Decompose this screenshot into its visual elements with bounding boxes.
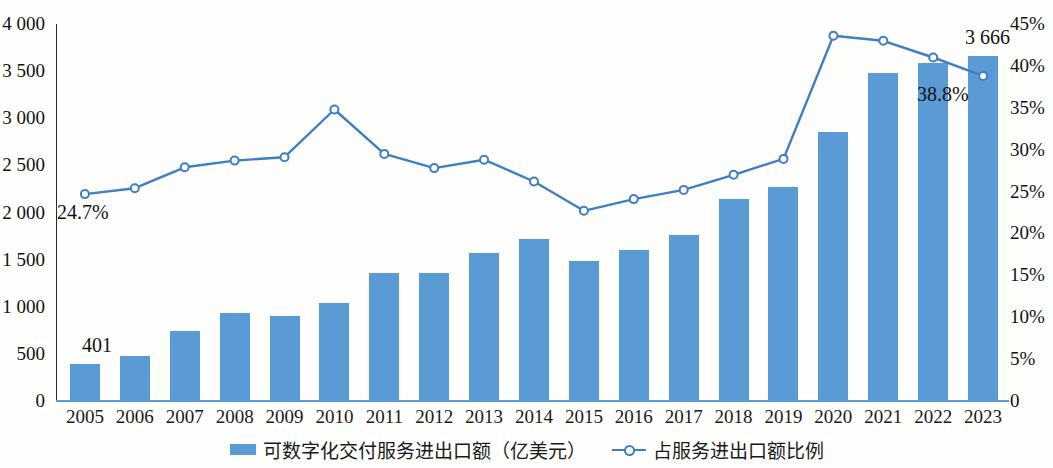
y-axis-right-tick: 45% xyxy=(1010,14,1045,33)
bar-2010[interactable] xyxy=(319,303,349,402)
y-axis-right-tick: 20% xyxy=(1010,223,1045,242)
bar-2023[interactable] xyxy=(968,56,998,402)
first-line-value: 24.7% xyxy=(57,202,109,222)
y-axis-left-tick: 3 500 xyxy=(2,61,45,80)
y-axis-right-tick: 5% xyxy=(1010,349,1035,368)
y-axis-left-tick: 3 000 xyxy=(2,108,45,127)
plot-area xyxy=(60,24,1005,402)
y-axis-right-tick: 30% xyxy=(1010,140,1045,159)
bar-2008[interactable] xyxy=(220,313,250,402)
bar-2009[interactable] xyxy=(270,316,300,402)
bar-2012[interactable] xyxy=(419,273,449,402)
legend-label-line: 占服务进出口额比例 xyxy=(653,436,824,463)
bar-swatch-icon xyxy=(230,444,256,455)
legend-label-bar: 可数字化交付服务进出口额（亿美元） xyxy=(263,436,586,463)
bar-2021[interactable] xyxy=(868,73,898,402)
chart-legend: 可数字化交付服务进出口额（亿美元） 占服务进出口额比例 xyxy=(0,436,1053,463)
bar-2022[interactable] xyxy=(918,63,948,402)
last-bar-value: 3 666 xyxy=(965,27,1010,47)
y-axis-left-tick: 4 000 xyxy=(2,14,45,33)
y-axis-right-tick: 40% xyxy=(1010,56,1045,75)
x-axis-tick-2023: 2023 xyxy=(953,406,1013,427)
bar-2014[interactable] xyxy=(519,239,549,402)
bar-2018[interactable] xyxy=(719,199,749,402)
bar-2011[interactable] xyxy=(369,273,399,402)
y-axis-left-tick: 500 xyxy=(17,344,46,363)
bar-2013[interactable] xyxy=(469,253,499,402)
y-axis-left-tick: 0 xyxy=(36,391,46,410)
chart-container: 05001 0001 5002 0002 5003 0003 5004 000 … xyxy=(0,0,1053,468)
y-axis-right-tick: 10% xyxy=(1010,307,1045,326)
bar-2015[interactable] xyxy=(569,261,599,402)
line-marker-icon xyxy=(612,444,646,456)
y-axis-right-tick: 25% xyxy=(1010,182,1045,201)
bar-2005[interactable] xyxy=(70,364,100,402)
bar-2016[interactable] xyxy=(619,250,649,402)
bar-2020[interactable] xyxy=(818,132,848,402)
first-bar-value: 401 xyxy=(82,335,112,355)
y-axis-left-tick: 1 500 xyxy=(2,250,45,269)
y-axis-left-tick: 2 000 xyxy=(2,203,45,222)
bar-2019[interactable] xyxy=(768,187,798,402)
legend-item-bar[interactable]: 可数字化交付服务进出口额（亿美元） xyxy=(230,436,586,463)
bar-2017[interactable] xyxy=(669,235,699,402)
y-axis-left-tick: 2 500 xyxy=(2,155,45,174)
y-axis-right-tick: 35% xyxy=(1010,98,1045,117)
y-axis-left-tick: 1 000 xyxy=(2,297,45,316)
legend-item-line[interactable]: 占服务进出口额比例 xyxy=(612,436,824,463)
last-line-value: 38.8% xyxy=(917,84,969,104)
bar-2007[interactable] xyxy=(170,331,200,402)
y-axis-right-tick: 15% xyxy=(1010,265,1045,284)
bar-2006[interactable] xyxy=(120,356,150,402)
